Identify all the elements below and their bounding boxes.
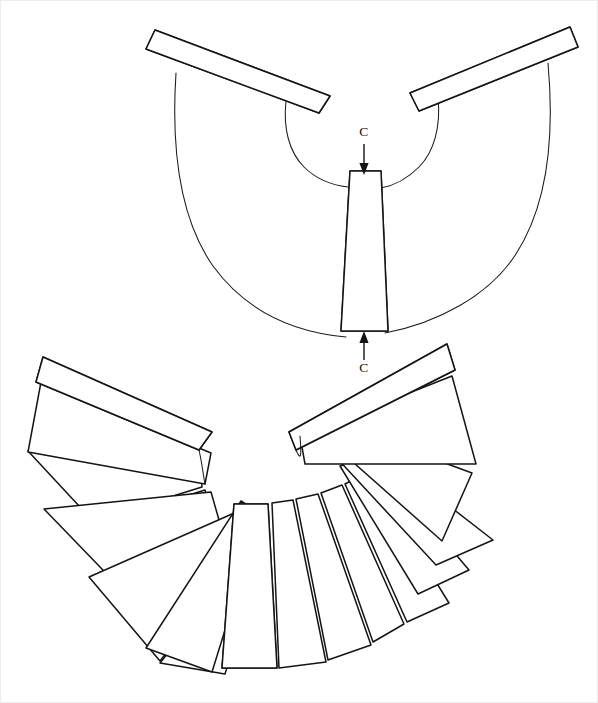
technical-diagram: C C bbox=[0, 0, 598, 703]
diagram-canvas: C C bbox=[0, 0, 598, 703]
inner-arc-right bbox=[381, 97, 439, 188]
inner-arc-left bbox=[285, 101, 348, 187]
assembled-annular-fan-view bbox=[28, 338, 493, 676]
section-marker-top: C bbox=[359, 124, 368, 175]
section-marker-bottom: C bbox=[359, 331, 368, 375]
section-label-top: C bbox=[359, 124, 368, 139]
outer-arc-left bbox=[175, 73, 346, 337]
segment-diagonal-hatch-exploded bbox=[334, 165, 396, 339]
segment-crosshatch-exploded bbox=[140, 24, 340, 124]
exploded-annular-fan-view: C C bbox=[140, 22, 588, 375]
outer-arc-right bbox=[385, 63, 550, 333]
section-label-bottom: C bbox=[359, 360, 368, 375]
section-arrow-head-bottom bbox=[359, 331, 368, 343]
segment-stipple-exploded bbox=[404, 22, 588, 118]
